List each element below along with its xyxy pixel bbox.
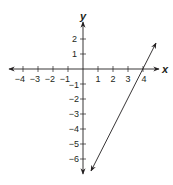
x-tick-label: 1 (95, 74, 100, 84)
x-tick-label: −3 (30, 74, 40, 84)
x-tick-label: 4 (141, 74, 146, 84)
coordinate-plane: −4 −3 −2 −1 1 2 3 4 2 1 −1 −2 −3 −4 −5 −… (0, 0, 173, 185)
y-tick-label: −1 (69, 80, 79, 90)
x-tick-label: 2 (110, 74, 115, 84)
y-tick-label: −6 (69, 154, 79, 164)
y-tick-label: −2 (69, 94, 79, 104)
y-tick-label: −5 (69, 139, 79, 149)
x-tick-label: −4 (15, 74, 25, 84)
x-axis-label: x (161, 63, 169, 75)
y-tick-label: −4 (69, 124, 79, 134)
y-tick-label: 1 (72, 49, 77, 59)
plotted-line (91, 43, 156, 171)
x-tick-label: 3 (125, 74, 130, 84)
x-tick-label: −2 (45, 74, 55, 84)
y-axis-label: y (79, 10, 87, 22)
y-tick-label: −3 (69, 109, 79, 119)
y-tick-label: 2 (72, 34, 77, 44)
